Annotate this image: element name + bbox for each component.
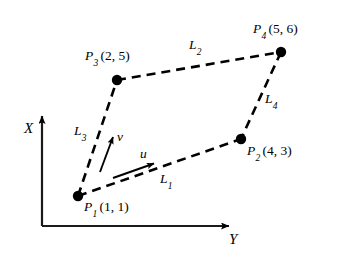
vector-label-v: v	[117, 130, 123, 144]
edge-subscript-L4: 4	[273, 101, 278, 111]
point-label-P2: P2(4, 3)	[247, 144, 292, 161]
vector-u-arrow	[113, 164, 154, 179]
edge-name-L1: L	[160, 171, 168, 186]
edge-label-L3: L3	[74, 124, 86, 141]
point-label-P4: P4(5, 6)	[253, 22, 298, 39]
point-marker-P1	[73, 191, 83, 201]
point-marker-P3	[112, 75, 122, 85]
point-subscript-P1: 1	[93, 209, 98, 219]
point-coords-P4: (5, 6)	[266, 21, 298, 36]
point-name-P3: P	[85, 48, 93, 63]
point-label-P3: P3(2, 5)	[85, 49, 130, 66]
geometry-diagram: P1(1, 1) P2(4, 3) P3(2, 5) P4(5, 6) L1 L…	[0, 0, 339, 260]
edge-subscript-L1: 1	[168, 181, 173, 191]
point-marker-P4	[276, 47, 286, 57]
point-marker-P2	[236, 134, 246, 144]
x-axis-label: X	[24, 121, 33, 136]
point-coords-P3: (2, 5)	[98, 48, 130, 63]
edge-label-L1: L1	[160, 172, 172, 189]
point-name-P4: P	[253, 21, 261, 36]
edges-group	[78, 52, 281, 196]
point-subscript-P3: 3	[94, 58, 99, 68]
edge-subscript-L3: 3	[82, 133, 87, 143]
edge-subscript-L2: 2	[197, 47, 202, 57]
edge-name-L2: L	[189, 37, 197, 52]
edge-label-L4: L4	[265, 92, 277, 109]
edge-name-L4: L	[265, 91, 273, 106]
vector-label-u: u	[140, 147, 147, 161]
edge-label-L2: L2	[189, 38, 201, 55]
edge-name-L3: L	[74, 123, 82, 138]
point-subscript-P4: 4	[262, 31, 267, 41]
point-label-P1: P1(1, 1)	[84, 200, 129, 217]
y-axis-label: Y	[229, 232, 237, 247]
vector-v-arrow	[100, 137, 113, 172]
point-coords-P2: (4, 3)	[260, 143, 292, 158]
point-subscript-P2: 2	[256, 153, 261, 163]
point-name-P1: P	[84, 199, 92, 214]
point-name-P2: P	[247, 143, 255, 158]
point-coords-P1: (1, 1)	[97, 199, 129, 214]
